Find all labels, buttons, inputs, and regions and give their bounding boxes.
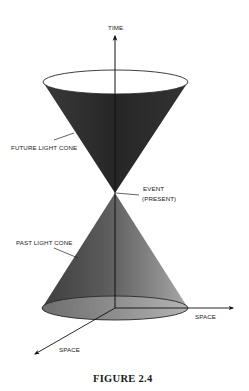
event-leader: [116, 193, 139, 195]
event-present-label: (PRESENT): [142, 195, 176, 202]
past-cone-leader: [54, 248, 78, 258]
time-axis-label: TIME: [108, 24, 123, 31]
event-label: EVENT: [143, 185, 164, 192]
future-light-cone-label: FUTURE LIGHT CONE: [11, 144, 77, 151]
future-cone-leader: [54, 133, 74, 140]
figure-caption: FIGURE 2.4: [93, 373, 153, 384]
light-cone-diagram: TIME FUTURE LIGHT CONE EVENT (PRESENT) P…: [0, 0, 249, 391]
space-axis-right-label: SPACE: [195, 313, 216, 320]
past-light-cone-label: PAST LIGHT CONE: [16, 239, 73, 246]
space-axis-diagonal-label: SPACE: [59, 346, 80, 353]
